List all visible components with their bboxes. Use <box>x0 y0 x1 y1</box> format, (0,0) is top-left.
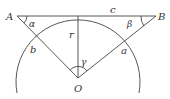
segment-r-label: r <box>69 29 75 40</box>
angle-gamma-label: γ <box>81 57 87 67</box>
segment-a-label: a <box>121 45 127 56</box>
angle-gamma-arc <box>70 66 87 71</box>
segment-b-label: b <box>30 44 36 55</box>
segment-c-label: c <box>110 4 116 15</box>
segment-ao <box>17 16 78 78</box>
segment-bo <box>78 16 156 78</box>
angle-alpha-arc <box>24 16 27 23</box>
point-o-label: O <box>74 83 82 94</box>
point-a-label: A <box>5 11 13 22</box>
angle-beta-arc <box>141 16 144 26</box>
diagram-canvas: A B O c r a b α β γ <box>0 0 170 99</box>
angle-beta-label: β <box>126 19 132 29</box>
geometry-diagram: A B O c r a b α β γ <box>0 0 170 99</box>
point-b-label: B <box>157 11 165 22</box>
angle-alpha-label: α <box>29 19 35 29</box>
